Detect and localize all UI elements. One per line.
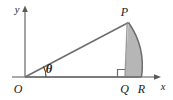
segment-op [25, 23, 129, 78]
y-axis-arrow-icon [22, 6, 28, 13]
right-angle-marker-icon [118, 70, 126, 78]
point-label-p: P [120, 5, 129, 19]
point-label-r: R [137, 82, 146, 96]
point-label-q: Q [120, 82, 129, 96]
figure-canvas: P Q R O x y θ [0, 0, 173, 100]
x-axis-arrow-icon [154, 74, 161, 80]
angle-label-theta: θ [46, 62, 53, 76]
axis-label-x: x [160, 81, 166, 92]
geometry-figure: P Q R O x y θ [0, 0, 173, 100]
axis-label-y: y [14, 4, 20, 15]
origin-label-o: O [14, 82, 23, 96]
